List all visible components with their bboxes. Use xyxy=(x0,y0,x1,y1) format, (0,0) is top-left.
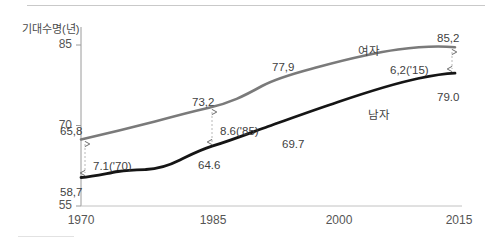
y-tick-label-55: 55 xyxy=(46,199,72,211)
life-expectancy-line-chart xyxy=(0,0,491,241)
x-tick-label-1970: 1970 xyxy=(58,214,104,226)
x-tick-label-2000: 2000 xyxy=(316,214,362,226)
female-value-label-2015: 85,2 xyxy=(437,33,459,45)
series-label-male: 남자 xyxy=(368,110,390,122)
female-value-label-2000: 77,9 xyxy=(272,62,294,74)
x-tick-label-1985: 1985 xyxy=(190,214,236,226)
chart-page: 기대수명(년) 85 70 55 1970 1985 2000 2015 65,… xyxy=(0,0,491,241)
male-value-label-2015: 79.0 xyxy=(437,92,459,104)
series-label-female: 여자 xyxy=(358,46,380,58)
female-value-label-1985: 73,2 xyxy=(192,97,214,109)
female-value-label-1970: 65,8 xyxy=(60,126,82,138)
gap-label-2015: 6,2('15) xyxy=(390,65,429,77)
y-axis-title: 기대수명(년) xyxy=(22,24,79,35)
gap-label-1985: 8.6('85) xyxy=(220,126,259,138)
male-value-label-2000: 69.7 xyxy=(282,139,304,151)
male-value-label-1970: 58,7 xyxy=(60,187,82,199)
gap-label-1970: 7.1('70) xyxy=(93,161,132,173)
x-tick-label-2015: 2015 xyxy=(436,214,482,226)
y-tick-label-85: 85 xyxy=(46,38,72,50)
male-value-label-1985: 64.6 xyxy=(198,160,220,172)
